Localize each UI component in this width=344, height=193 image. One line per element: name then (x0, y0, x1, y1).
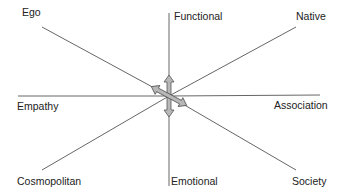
label-functional: Functional (174, 10, 222, 22)
radial-axes-diagram (0, 0, 344, 193)
label-cosmopolitan: Cosmopolitan (17, 175, 81, 187)
axis-association-line (169, 95, 320, 96)
label-empathy: Empathy (17, 100, 58, 112)
label-society: Society (292, 175, 326, 187)
label-native: Native (296, 10, 326, 22)
label-association: Association (274, 99, 328, 111)
axis-native-line (169, 27, 296, 96)
label-ego: Ego (22, 6, 41, 18)
label-emotional: Emotional (171, 175, 218, 187)
axis-ego-line (42, 27, 169, 96)
axis-cosmopolitan-line (42, 96, 169, 170)
